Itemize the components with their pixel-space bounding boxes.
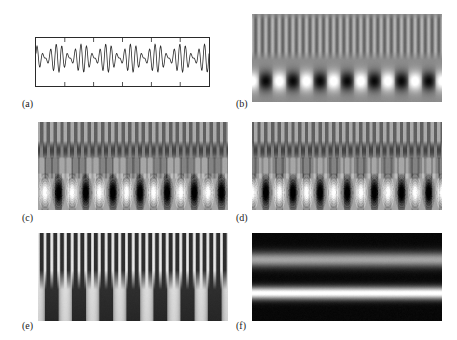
panel-c-raster-image bbox=[38, 122, 228, 210]
panel-c-label: (c) bbox=[22, 212, 33, 223]
panel-f-raster-image bbox=[252, 233, 442, 321]
panel-f-label: (f) bbox=[236, 320, 246, 331]
panel-d-raster-image bbox=[252, 122, 442, 210]
panel-b-raster-image bbox=[252, 14, 442, 102]
panel-d-label: (d) bbox=[236, 212, 248, 223]
panel-b-label: (b) bbox=[236, 98, 248, 109]
panel-a-waveform-canvas bbox=[36, 38, 209, 86]
panel-a-label: (a) bbox=[22, 98, 33, 109]
figure-container: (a) (b) (c) (d) (e) (f) bbox=[0, 0, 457, 340]
panel-e-raster-image bbox=[38, 233, 228, 321]
panel-a-plot-frame bbox=[35, 37, 210, 87]
panel-e-label: (e) bbox=[22, 320, 33, 331]
